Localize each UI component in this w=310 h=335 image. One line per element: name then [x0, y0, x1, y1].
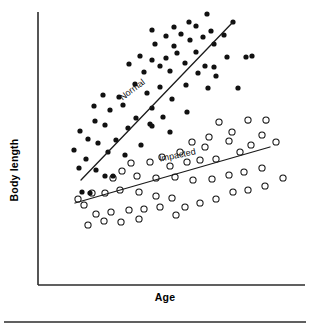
x-axis-title: Age: [155, 291, 175, 303]
data-point-impacted: [202, 144, 208, 150]
data-point-impacted: [273, 139, 279, 145]
series-label-impacted: Impacted: [158, 146, 196, 163]
data-point-impacted: [153, 193, 159, 199]
data-point-impacted: [173, 212, 179, 218]
data-point-normal: [224, 54, 229, 59]
data-point-impacted: [280, 175, 286, 181]
data-point-impacted: [128, 160, 134, 166]
data-point-normal: [243, 54, 248, 59]
data-point-impacted: [147, 159, 153, 165]
data-point-normal: [187, 37, 192, 42]
data-point-impacted: [197, 157, 203, 163]
data-point-normal: [107, 107, 112, 112]
data-point-impacted: [136, 216, 142, 222]
data-point-impacted: [259, 132, 265, 138]
data-point-impacted: [101, 218, 107, 224]
data-point-impacted: [230, 189, 236, 195]
data-point-normal: [157, 84, 162, 89]
data-point-impacted: [189, 139, 195, 145]
data-point-normal: [200, 34, 205, 39]
data-point-normal: [193, 23, 198, 28]
data-point-normal: [205, 85, 210, 90]
data-point-impacted: [182, 204, 188, 210]
y-axis-title: Body length: [8, 139, 20, 202]
plot-canvas: Normal Impacted Age Body length: [0, 0, 310, 335]
data-point-normal: [249, 53, 254, 58]
data-point-normal: [93, 167, 98, 172]
data-point-normal: [110, 173, 115, 178]
data-point-normal: [71, 147, 76, 152]
data-point-impacted: [184, 159, 190, 165]
data-point-normal: [163, 55, 168, 60]
series-normal-points: [71, 11, 254, 195]
data-point-impacted: [141, 206, 147, 212]
data-point-normal: [171, 24, 176, 29]
scatter-plot-figure: Normal Impacted Age Body length: [0, 0, 310, 335]
data-point-impacted: [237, 149, 243, 155]
data-point-impacted: [209, 176, 215, 182]
data-point-normal: [77, 128, 82, 133]
data-point-impacted: [119, 168, 125, 174]
data-point-normal: [83, 156, 88, 161]
data-point-impacted: [241, 169, 247, 175]
data-point-normal: [102, 122, 107, 127]
data-point-normal: [183, 82, 188, 87]
data-point-normal: [149, 123, 154, 128]
data-point-normal: [171, 43, 176, 48]
data-point-normal: [95, 140, 100, 145]
data-point-normal: [138, 142, 143, 147]
data-point-normal: [79, 189, 84, 194]
data-point-normal: [235, 85, 240, 90]
data-point-impacted: [216, 119, 222, 125]
data-point-impacted: [245, 117, 251, 123]
data-point-impacted: [213, 196, 219, 202]
data-point-impacted: [167, 163, 173, 169]
data-point-normal: [141, 69, 146, 74]
data-point-normal: [92, 118, 97, 123]
data-point-impacted: [126, 207, 132, 213]
data-point-normal: [87, 190, 92, 195]
data-point-impacted: [226, 138, 232, 144]
data-point-impacted: [245, 187, 251, 193]
series-label-normal: Normal: [118, 77, 147, 102]
data-point-normal: [211, 64, 216, 69]
data-point-impacted: [229, 129, 235, 135]
data-point-normal: [193, 49, 198, 54]
data-point-impacted: [85, 222, 91, 228]
data-point-impacted: [108, 209, 114, 215]
data-point-normal: [144, 90, 149, 95]
data-point-normal: [178, 31, 183, 36]
data-point-impacted: [206, 134, 212, 140]
data-point-impacted: [81, 202, 87, 208]
data-point-impacted: [157, 204, 163, 210]
data-point-impacted: [190, 177, 196, 183]
data-point-impacted: [213, 156, 219, 162]
data-point-impacted: [262, 183, 268, 189]
data-point-normal: [122, 152, 127, 157]
data-point-normal: [167, 129, 172, 134]
data-point-impacted: [169, 195, 175, 201]
data-point-impacted: [226, 172, 232, 178]
data-point-normal: [186, 19, 191, 24]
data-point-normal: [149, 27, 154, 32]
data-point-normal: [126, 61, 131, 66]
data-point-normal: [195, 70, 200, 75]
data-point-normal: [137, 53, 142, 58]
data-point-normal: [184, 109, 189, 114]
data-point-normal: [76, 165, 81, 170]
data-point-normal: [167, 68, 172, 73]
data-point-impacted: [118, 219, 124, 225]
data-point-normal: [133, 115, 138, 120]
data-point-normal: [163, 33, 168, 38]
data-point-normal: [85, 136, 90, 141]
data-point-normal: [152, 41, 157, 46]
data-point-impacted: [136, 189, 142, 195]
data-point-normal: [149, 57, 154, 62]
data-point-impacted: [197, 200, 203, 206]
data-point-normal: [208, 28, 213, 33]
data-point-normal: [204, 11, 209, 16]
data-point-normal: [102, 173, 107, 178]
trend-line-normal: [81, 22, 233, 180]
data-point-normal: [157, 63, 162, 68]
data-point-normal: [91, 103, 96, 108]
